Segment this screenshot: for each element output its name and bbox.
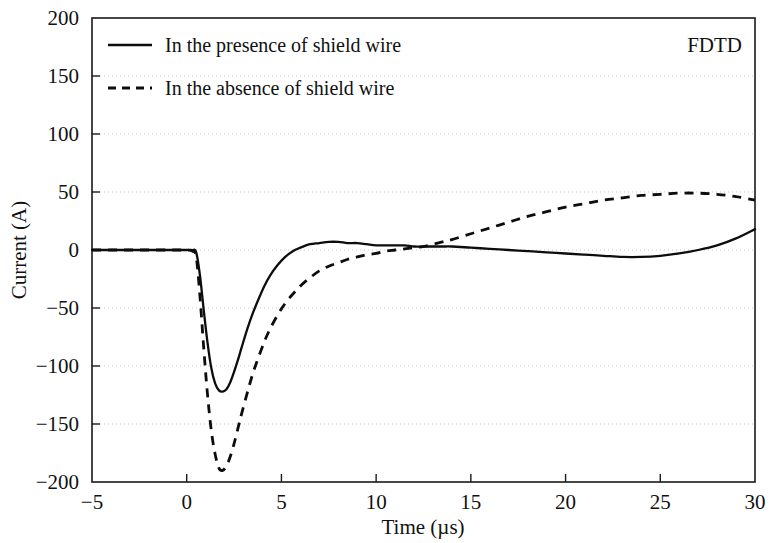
y-tick-label-50: 50	[58, 180, 79, 204]
legend-label-presence: In the presence of shield wire	[165, 34, 401, 57]
annotation-fdtd: FDTD	[687, 33, 742, 57]
y-tick-label--50: −50	[46, 296, 79, 320]
chart-figure: −200−150−100−50050100150200 −50510152025…	[0, 0, 775, 543]
y-tick-label-150: 150	[48, 64, 80, 88]
x-tick-label-30: 30	[745, 490, 766, 514]
y-tick-label--100: −100	[36, 354, 79, 378]
current-vs-time-line-chart: −200−150−100−50050100150200 −50510152025…	[0, 0, 775, 543]
x-tick-label-10: 10	[366, 490, 387, 514]
x-tick-label-25: 25	[650, 490, 671, 514]
x-tick-label-5: 5	[276, 490, 287, 514]
legend-label-absence: In the absence of shield wire	[165, 77, 394, 99]
x-tick-label-15: 15	[460, 490, 481, 514]
y-axis-title: Current (A)	[7, 201, 31, 300]
y-tick-label-0: 0	[69, 238, 80, 262]
x-tick-label--5: −5	[81, 490, 103, 514]
x-tick-label-0: 0	[181, 490, 192, 514]
y-tick-label--150: −150	[36, 412, 79, 436]
x-axis-title: Time (µs)	[381, 515, 464, 539]
x-tick-label-20: 20	[555, 490, 576, 514]
y-tick-label-100: 100	[48, 122, 80, 146]
y-tick-label--200: −200	[36, 470, 79, 494]
y-tick-label-200: 200	[48, 6, 80, 30]
